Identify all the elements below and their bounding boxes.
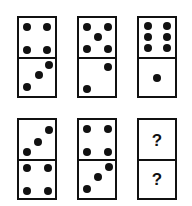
pip xyxy=(83,85,91,93)
pip xyxy=(105,163,113,171)
domino-bottom-half-one-pip xyxy=(139,57,175,96)
pip xyxy=(94,173,102,181)
domino-r1-c3 xyxy=(137,16,177,98)
pip xyxy=(45,61,53,69)
pip xyxy=(23,187,31,195)
pip xyxy=(45,126,53,134)
question-mark-top: ? xyxy=(139,132,175,149)
pip xyxy=(43,23,51,31)
pip xyxy=(23,83,31,91)
pip xyxy=(104,45,112,53)
domino-bottom-half-three-pips xyxy=(79,159,115,198)
pip xyxy=(144,33,152,41)
domino-top-half-six-pips xyxy=(139,18,175,57)
question-mark-bottom: ? xyxy=(139,171,175,188)
pip xyxy=(83,185,91,193)
pip xyxy=(104,23,112,31)
domino-bottom-half-four-pips xyxy=(19,159,55,198)
pip xyxy=(23,46,31,54)
domino-bottom-half-three-pips xyxy=(19,57,55,96)
pip xyxy=(163,33,171,41)
domino-bottom-half-unknown: ? xyxy=(139,159,175,198)
pip xyxy=(153,74,161,82)
domino-r1-c1 xyxy=(17,16,57,98)
domino-r2-c2 xyxy=(77,118,117,200)
domino-top-half-five-pips xyxy=(79,18,115,57)
pip xyxy=(23,23,31,31)
pip xyxy=(83,148,91,156)
domino-top-half-three-pips xyxy=(19,120,55,159)
pip xyxy=(94,33,102,41)
domino-r2-c3-unknown: ? ? xyxy=(137,118,177,200)
domino-top-half-unknown: ? xyxy=(139,120,175,159)
pip xyxy=(104,148,112,156)
pip xyxy=(43,46,51,54)
pip xyxy=(35,71,43,79)
pip xyxy=(83,45,91,53)
pip xyxy=(144,44,152,52)
pip xyxy=(34,138,42,146)
domino-r2-c1 xyxy=(17,118,57,200)
domino-top-half-four-pips xyxy=(79,120,115,159)
domino-bottom-half-two-pips xyxy=(79,57,115,96)
pip xyxy=(163,44,171,52)
pip xyxy=(44,187,52,195)
pip xyxy=(23,164,31,172)
pip xyxy=(23,148,31,156)
domino-r1-c2 xyxy=(77,16,117,98)
pip xyxy=(163,22,171,30)
pip xyxy=(83,23,91,31)
pip xyxy=(83,125,91,133)
pip xyxy=(44,164,52,172)
domino-top-half-four-pips xyxy=(19,18,55,57)
pip xyxy=(104,63,112,71)
pip xyxy=(104,125,112,133)
pip xyxy=(144,22,152,30)
